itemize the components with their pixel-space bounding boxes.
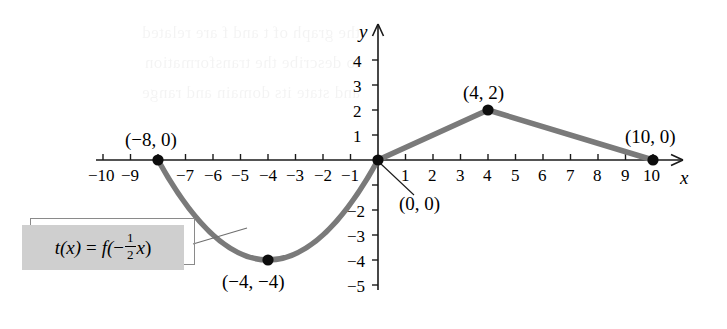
x-tick-label-8: 8 [593, 167, 602, 184]
x-tick-label-10: 10 [643, 167, 660, 184]
formula-callout-box: t(x) = f( − 1 2 x ) [22, 225, 184, 270]
y-tick-label--5: −5 [347, 278, 365, 295]
fraction-numerator: 1 [125, 231, 136, 245]
x-tick-label--9: −9 [121, 167, 139, 184]
curve-rising-segment [378, 110, 488, 160]
y-tick-label--2: −2 [347, 203, 365, 220]
y-tick-label-2: 2 [353, 103, 362, 120]
x-tick-label-2: 2 [428, 167, 437, 184]
function-curve [158, 110, 653, 260]
formula-function-f-open: f( [102, 237, 114, 259]
x-tick-label--2: −2 [314, 167, 332, 184]
formula-close-paren: ) [145, 237, 151, 259]
formula-minus-sign: − [113, 237, 124, 259]
point-label-10-0: (10, 0) [625, 127, 676, 146]
x-tick-label-5: 5 [511, 167, 520, 184]
x-tick-label--6: −6 [204, 167, 222, 184]
formula-fraction-one-half: 1 2 [125, 231, 136, 261]
x-tick-label-3: 3 [456, 167, 465, 184]
x-tick-label-9: 9 [621, 167, 630, 184]
formula-equals: = [86, 237, 97, 259]
point-label-neg8-0: (−8, 0) [125, 130, 177, 149]
y-tick-label-4: 4 [353, 53, 362, 70]
formula-variable-x: x [137, 237, 145, 259]
x-tick-label-4: 4 [483, 167, 492, 184]
fraction-denominator: 2 [125, 248, 136, 262]
x-tick-label-7: 7 [566, 167, 575, 184]
point-label-4-2: (4, 2) [463, 83, 504, 102]
formula-function-t: t(x) [55, 237, 81, 259]
point-label-neg4-neg4: (−4, −4) [222, 272, 285, 291]
marked-points [152, 104, 658, 265]
formula-expression: t(x) = f( − 1 2 x ) [55, 232, 152, 262]
point-marker-4-2 [482, 104, 493, 115]
x-tick-label--5: −5 [231, 167, 249, 184]
point-marker-neg4-neg4 [262, 254, 273, 265]
x-tick-label--1: −1 [341, 167, 359, 184]
y-tick-label-1: 1 [353, 128, 362, 145]
x-tick-label-6: 6 [538, 167, 547, 184]
y-tick-label--3: −3 [347, 228, 365, 245]
x-tick-label--7: −7 [176, 167, 194, 184]
point-label-0-0: (0, 0) [399, 194, 440, 213]
x-tick-label--4: −4 [259, 167, 277, 184]
point-marker-0-0 [372, 154, 383, 165]
x-tick-label--3: −3 [286, 167, 304, 184]
x-tick-label--10: −10 [88, 167, 115, 184]
graph-figure: the graph of t and f are related to desc… [0, 0, 727, 329]
point-marker-10-0 [647, 154, 658, 165]
y-tick-label--4: −4 [347, 253, 365, 270]
y-axis-label: y [359, 22, 367, 41]
y-tick-label-3: 3 [353, 78, 362, 95]
point-marker-neg8-0 [152, 154, 163, 165]
x-tick-label-1: 1 [401, 167, 410, 184]
x-axis-label: x [680, 168, 688, 187]
